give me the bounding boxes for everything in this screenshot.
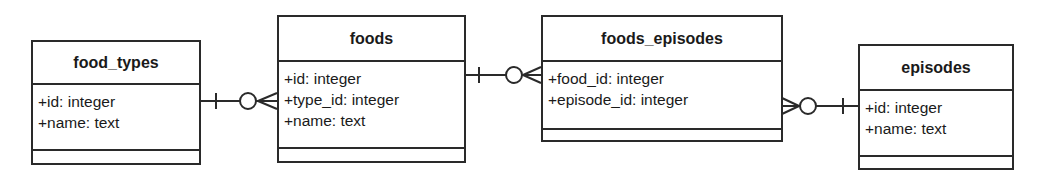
attribute-id: +id: integer bbox=[38, 91, 199, 112]
entity-episodes[interactable]: episodes +id: integer +name: text bbox=[858, 44, 1014, 170]
attribute-id: +id: integer bbox=[284, 68, 464, 89]
attribute-list: +food_id: integer +episode_id: integer bbox=[543, 62, 781, 130]
relationship-episodes-foods-episodes bbox=[782, 98, 858, 114]
attribute-name: +name: text bbox=[284, 110, 464, 131]
attribute-list: +id: integer +type_id: integer +name: te… bbox=[279, 62, 464, 149]
attribute-food-id: +food_id: integer bbox=[548, 68, 781, 89]
attribute-name: +name: text bbox=[865, 118, 1012, 139]
entity-foods-episodes[interactable]: foods_episodes +food_id: integer +episod… bbox=[541, 15, 783, 142]
zero-circle-icon bbox=[506, 67, 522, 83]
attribute-list: +id: integer +name: text bbox=[860, 91, 1012, 157]
entity-title: episodes bbox=[860, 46, 1012, 91]
attribute-list: +id: integer +name: text bbox=[33, 85, 199, 151]
entity-foods[interactable]: foods +id: integer +type_id: integer +na… bbox=[277, 15, 466, 163]
entity-food-types[interactable]: food_types +id: integer +name: text bbox=[31, 40, 201, 165]
attribute-name: +name: text bbox=[38, 112, 199, 133]
relationship-food-types-foods bbox=[200, 93, 277, 109]
entity-title: foods bbox=[279, 17, 464, 62]
attribute-type-id: +type_id: integer bbox=[284, 89, 464, 110]
zero-circle-icon bbox=[800, 98, 816, 114]
relationship-foods-foods-episodes bbox=[465, 67, 541, 83]
zero-circle-icon bbox=[240, 93, 256, 109]
entity-title: foods_episodes bbox=[543, 17, 781, 62]
attribute-id: +id: integer bbox=[865, 97, 1012, 118]
entity-title: food_types bbox=[33, 42, 199, 85]
attribute-episode-id: +episode_id: integer bbox=[548, 89, 781, 110]
